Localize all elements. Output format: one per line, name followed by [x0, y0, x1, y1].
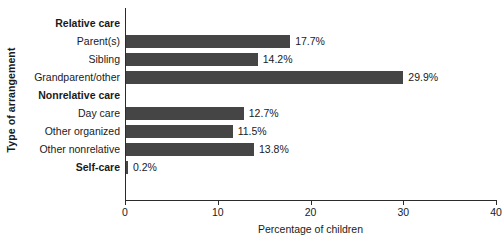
x-tick — [496, 200, 497, 205]
x-tick — [218, 200, 219, 205]
bar-value-label: 13.8% — [259, 140, 289, 158]
bar — [126, 35, 290, 48]
chart-row: Parent(s)17.7% — [0, 32, 500, 50]
x-axis-title: Percentage of children — [125, 223, 496, 235]
chart-row: Other organized11.5% — [0, 122, 500, 140]
bar-value-label: 17.7% — [295, 32, 325, 50]
chart-row: Day care12.7% — [0, 104, 500, 122]
x-tick — [403, 200, 404, 205]
x-tick — [125, 200, 126, 205]
bar — [126, 161, 128, 174]
y-axis-line — [125, 8, 126, 200]
x-tick-label: 20 — [305, 206, 317, 218]
bar-value-label: 11.5% — [238, 122, 267, 140]
bar-value-label: 0.2% — [133, 158, 157, 176]
bar — [126, 143, 254, 156]
chart-row: Self-care0.2% — [0, 158, 500, 176]
row-label: Grandparent/other — [0, 68, 120, 86]
chart-row: Other nonrelative13.8% — [0, 140, 500, 158]
row-label: Other organized — [0, 122, 120, 140]
x-tick-label: 0 — [122, 206, 128, 218]
bar-value-label: 14.2% — [263, 50, 293, 68]
plot-area: Relative careParent(s)17.7%Sibling14.2%G… — [0, 8, 500, 204]
row-label: Other nonrelative — [0, 140, 120, 158]
row-label: Nonrelative care — [0, 86, 120, 104]
x-tick-label: 40 — [490, 206, 502, 218]
chart-row: Grandparent/other29.9% — [0, 68, 500, 86]
x-tick — [311, 200, 312, 205]
x-tick-label: 10 — [212, 206, 224, 218]
x-tick-label: 30 — [397, 206, 409, 218]
bar — [126, 71, 403, 84]
bar — [126, 107, 244, 120]
row-label: Relative care — [0, 14, 120, 32]
bar-value-label: 29.9% — [408, 68, 438, 86]
chart-row: Sibling14.2% — [0, 50, 500, 68]
row-label: Self-care — [0, 158, 120, 176]
row-label: Sibling — [0, 50, 120, 68]
chart-row: Nonrelative care — [0, 86, 500, 104]
bar — [126, 53, 258, 66]
chart-row: Relative care — [0, 14, 500, 32]
bar — [126, 125, 233, 138]
bar-value-label: 12.7% — [249, 104, 279, 122]
row-label: Day care — [0, 104, 120, 122]
row-label: Parent(s) — [0, 32, 120, 50]
